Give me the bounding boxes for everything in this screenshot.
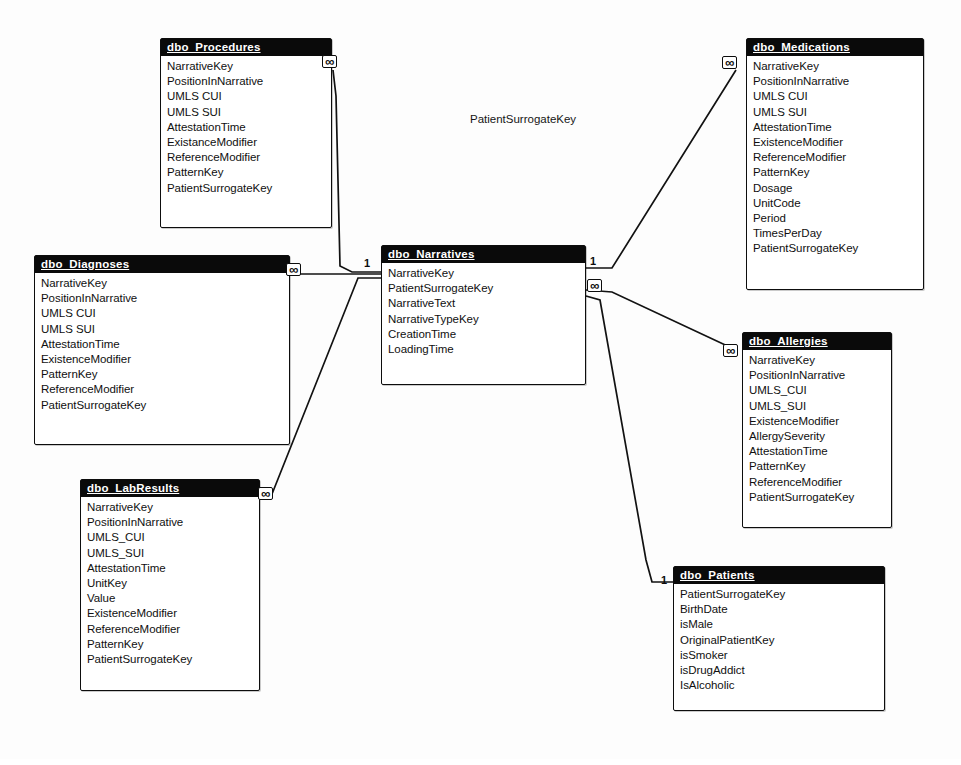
- entity-dbo-labresults[interactable]: dbo_LabResults NarrativeKey PositionInNa…: [80, 479, 260, 691]
- relationship-label-patientsurrogatekey: PatientSurrogateKey: [470, 113, 576, 125]
- entity-dbo-narratives[interactable]: dbo_Narratives NarrativeKey PatientSurro…: [381, 245, 586, 385]
- entity-title-diagnoses: dbo_Diagnoses: [35, 256, 289, 273]
- field-row: PatientSurrogateKey: [680, 587, 879, 602]
- field-row: TimesPerDay: [753, 226, 918, 241]
- cardinality-many-procedures: ∞: [322, 55, 337, 68]
- field-row: UMLS_CUI: [87, 530, 254, 545]
- field-list-patients: PatientSurrogateKey BirthDate isMale Ori…: [674, 584, 884, 699]
- field-row: PatientSurrogateKey: [87, 652, 254, 667]
- cardinality-one-patients: 1: [661, 575, 667, 586]
- field-row: UnitKey: [87, 576, 254, 591]
- field-row: NarrativeKey: [753, 59, 918, 74]
- field-row: PositionInNarrative: [41, 291, 284, 306]
- line-narratives-procedures: [333, 70, 381, 272]
- cardinality-one-narratives-right: 1: [590, 256, 596, 267]
- entity-title-narratives: dbo_Narratives: [382, 246, 585, 263]
- field-row: PatientSurrogateKey: [41, 398, 284, 413]
- field-row: UMLS CUI: [753, 89, 918, 104]
- field-list-diagnoses: NarrativeKey PositionInNarrative UMLS CU…: [35, 273, 289, 419]
- field-row: UMLS_SUI: [87, 546, 254, 561]
- field-row: NarrativeKey: [388, 266, 580, 281]
- cardinality-one-narratives-left: 1: [364, 258, 370, 269]
- entity-dbo-medications[interactable]: dbo_Medications NarrativeKey PositionInN…: [746, 38, 924, 290]
- field-row: ReferenceModifier: [753, 150, 918, 165]
- entity-dbo-procedures[interactable]: dbo_Procedures NarrativeKey PositionInNa…: [160, 38, 332, 228]
- field-row: UMLS SUI: [41, 322, 284, 337]
- field-row: AttestationTime: [749, 444, 886, 459]
- field-row: NarrativeTypeKey: [388, 312, 580, 327]
- field-row: PatternKey: [87, 637, 254, 652]
- field-row: ReferenceModifier: [41, 382, 284, 397]
- scan-edge: [0, 759, 961, 765]
- entity-title-patients: dbo_Patients: [674, 567, 884, 584]
- line-narratives-allergies: [586, 290, 736, 350]
- field-row: UMLS CUI: [167, 89, 326, 104]
- entity-title-medications: dbo_Medications: [747, 39, 923, 56]
- field-row: BirthDate: [680, 602, 879, 617]
- field-row: NarrativeKey: [87, 500, 254, 515]
- field-row: PatientSurrogateKey: [753, 241, 918, 256]
- field-row: PatternKey: [753, 165, 918, 180]
- entity-dbo-allergies[interactable]: dbo_Allergies NarrativeKey PositionInNar…: [742, 332, 892, 528]
- cardinality-many-allergies: ∞: [723, 344, 738, 357]
- field-list-narratives: NarrativeKey PatientSurrogateKey Narrati…: [382, 263, 585, 363]
- entity-title-allergies: dbo_Allergies: [743, 333, 891, 350]
- field-row: PositionInNarrative: [87, 515, 254, 530]
- field-row: ReferenceModifier: [167, 150, 326, 165]
- field-row: UMLS SUI: [753, 105, 918, 120]
- field-row: PositionInNarrative: [749, 368, 886, 383]
- field-row: Period: [753, 211, 918, 226]
- field-row: UMLS SUI: [167, 105, 326, 120]
- field-row: NarrativeKey: [41, 276, 284, 291]
- entity-dbo-diagnoses[interactable]: dbo_Diagnoses NarrativeKey PositionInNar…: [34, 255, 290, 445]
- field-row: ReferenceModifier: [87, 622, 254, 637]
- field-row: AttestationTime: [753, 120, 918, 135]
- field-row: ExistanceModifier: [167, 135, 326, 150]
- field-row: NarrativeKey: [749, 353, 886, 368]
- field-row: Value: [87, 591, 254, 606]
- cardinality-many-diagnoses: ∞: [286, 263, 301, 276]
- field-row: AttestationTime: [87, 561, 254, 576]
- field-row: NarrativeKey: [167, 59, 326, 74]
- field-row: NarrativeText: [388, 296, 580, 311]
- field-row: Dosage: [753, 181, 918, 196]
- field-row: UMLS_SUI: [749, 399, 886, 414]
- entity-dbo-patients[interactable]: dbo_Patients PatientSurrogateKey BirthDa…: [673, 566, 885, 711]
- field-row: CreationTime: [388, 327, 580, 342]
- field-row: ExistenceModifier: [753, 135, 918, 150]
- field-row: PositionInNarrative: [167, 74, 326, 89]
- field-list-medications: NarrativeKey PositionInNarrative UMLS CU…: [747, 56, 923, 263]
- er-diagram-canvas: dbo_Procedures NarrativeKey PositionInNa…: [0, 0, 961, 765]
- field-row: AttestationTime: [41, 337, 284, 352]
- field-list-procedures: NarrativeKey PositionInNarrative UMLS CU…: [161, 56, 331, 202]
- field-row: isMale: [680, 617, 879, 632]
- field-list-labresults: NarrativeKey PositionInNarrative UMLS_CU…: [81, 497, 259, 673]
- field-row: UMLS CUI: [41, 306, 284, 321]
- field-row: PatientSurrogateKey: [749, 490, 886, 505]
- field-row: PatternKey: [749, 459, 886, 474]
- field-row: ReferenceModifier: [749, 475, 886, 490]
- field-row: ExistenceModifier: [87, 606, 254, 621]
- field-row: OriginalPatientKey: [680, 633, 879, 648]
- field-row: UnitCode: [753, 196, 918, 211]
- field-row: PatternKey: [41, 367, 284, 382]
- field-row: ExistenceModifier: [749, 414, 886, 429]
- field-row: LoadingTime: [388, 342, 580, 357]
- field-row: PatientSurrogateKey: [388, 281, 580, 296]
- field-row: AllergySeverity: [749, 429, 886, 444]
- cardinality-many-narratives-right: ∞: [587, 279, 602, 292]
- entity-title-labresults: dbo_LabResults: [81, 480, 259, 497]
- field-row: AttestationTime: [167, 120, 326, 135]
- cardinality-many-labresults: ∞: [258, 487, 273, 500]
- field-row: PatientSurrogateKey: [167, 181, 326, 196]
- field-row: isDrugAddict: [680, 663, 879, 678]
- field-row: PatternKey: [167, 165, 326, 180]
- field-row: UMLS_CUI: [749, 383, 886, 398]
- field-list-allergies: NarrativeKey PositionInNarrative UMLS_CU…: [743, 350, 891, 511]
- cardinality-many-medications: ∞: [722, 56, 737, 69]
- field-row: ExistenceModifier: [41, 352, 284, 367]
- line-narratives-medications: [586, 70, 736, 268]
- line-patients-narratives: [586, 296, 676, 582]
- entity-title-procedures: dbo_Procedures: [161, 39, 331, 56]
- field-row: IsAlcoholic: [680, 678, 879, 693]
